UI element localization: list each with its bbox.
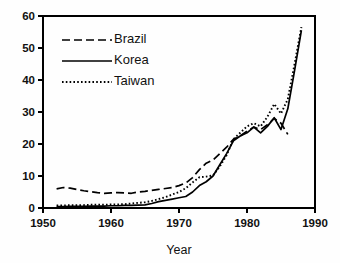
x-tick-label: 1990 [302, 217, 328, 229]
y-tick-label: 10 [22, 170, 35, 182]
plot-frame [43, 16, 315, 208]
series-line-taiwan [57, 27, 302, 205]
series-line-brazil [57, 118, 288, 193]
legend-label-korea: Korea [114, 52, 149, 67]
x-axis-title: Year [166, 243, 191, 257]
axes-layer [43, 16, 315, 208]
x-tick-label: 1970 [166, 217, 192, 229]
y-tick-label: 0 [29, 202, 35, 214]
y-axis-ticks: 0102030405060 [22, 10, 43, 214]
x-tick-label: 1980 [234, 217, 260, 229]
y-tick-label: 30 [22, 106, 35, 118]
x-tick-label: 1950 [30, 217, 56, 229]
y-tick-label: 50 [22, 42, 35, 54]
y-tick-label: 60 [22, 10, 35, 22]
line-chart: 0102030405060 19501960197019801990 Year … [0, 0, 340, 263]
x-tick-label: 1960 [98, 217, 124, 229]
x-axis-ticks: 19501960197019801990 [30, 208, 328, 229]
series-line-korea [57, 30, 302, 206]
legend-label-taiwan: Taiwan [114, 73, 154, 88]
chart-figure: 0102030405060 19501960197019801990 Year … [0, 0, 340, 263]
chart-legend: BrazilKoreaTaiwan [62, 31, 154, 88]
series-layer [57, 27, 302, 207]
y-tick-label: 40 [22, 74, 35, 86]
y-tick-label: 20 [22, 138, 35, 150]
legend-label-brazil: Brazil [114, 31, 147, 46]
